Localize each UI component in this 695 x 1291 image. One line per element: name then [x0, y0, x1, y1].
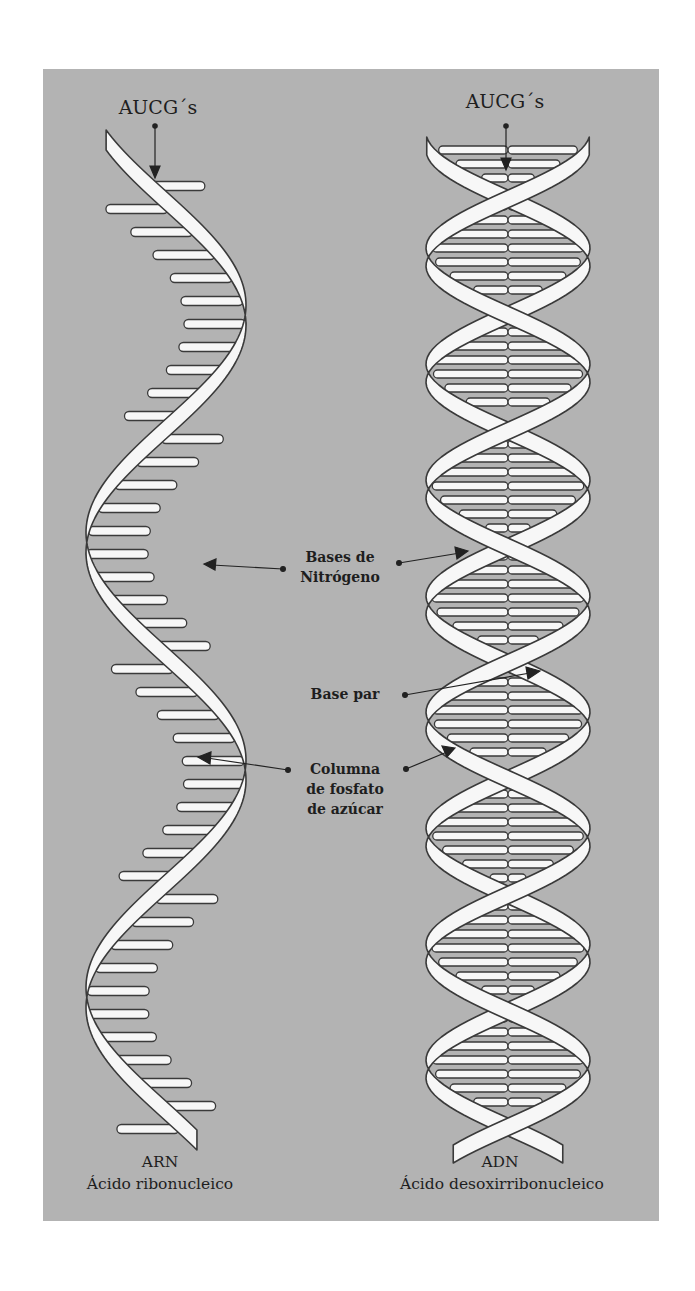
backbone-line-1: Columna — [285, 759, 405, 779]
rna-single-helix — [86, 130, 246, 1150]
dna-full-name: Ácido desoxirribonucleico — [400, 1173, 600, 1195]
base-pair-label: Base par — [290, 684, 400, 704]
rna-caption: ARN Ácido ribonucleico — [70, 1151, 250, 1195]
dna-top-label: AUCG´s — [455, 90, 555, 112]
backbone-line-3: de azúcar — [285, 799, 405, 819]
nitrogen-bases-line-2: Nitrógeno — [280, 567, 400, 587]
rna-top-label: AUCG´s — [108, 96, 208, 118]
rna-name: ARN — [70, 1151, 250, 1173]
dna-name: ADN — [400, 1151, 600, 1173]
rna-top-arrowhead — [150, 166, 160, 178]
rna-full-name: Ácido ribonucleico — [70, 1173, 250, 1195]
dna-caption: ADN Ácido desoxirribonucleico — [400, 1151, 600, 1195]
nitrogen-bases-line-1: Bases de — [280, 547, 400, 567]
nitrogen-bases-label: Bases de Nitrógeno — [280, 547, 400, 587]
backbone-label: Columna de fosfato de azúcar — [285, 759, 405, 819]
backbone-line-2: de fosfato — [285, 779, 405, 799]
helix-illustration — [0, 0, 695, 1291]
dna-double-helix — [426, 137, 590, 1163]
